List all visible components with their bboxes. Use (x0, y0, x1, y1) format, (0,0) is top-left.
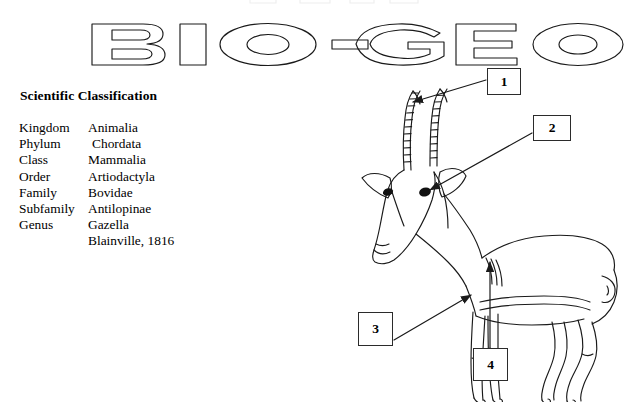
taxonomy-row: Subfamily Antilopinae (19, 201, 249, 217)
taxonomy-row: Class Mammalia (19, 152, 249, 168)
callout-box-4[interactable]: 4 (473, 348, 508, 381)
taxonomy-authority: Blainville, 1816 (88, 233, 174, 249)
taxonomy-value: Bovidae (88, 185, 133, 201)
taxonomy-row: Family Bovidae (19, 185, 249, 201)
leader-line-1 (413, 80, 486, 102)
worksheet-page: Scientific Classification Kingdom Animal… (0, 0, 624, 402)
taxonomy-row-continuation: Blainville, 1816 (19, 233, 249, 249)
taxonomy-rank: Kingdom (19, 120, 88, 136)
callout-box-2[interactable]: 2 (533, 115, 571, 141)
gazelle-figure: 1 2 3 4 (330, 40, 624, 402)
scientific-classification-block: Scientific Classification Kingdom Animal… (19, 88, 249, 250)
leader-line-3 (394, 295, 471, 340)
taxonomy-rank: Genus (19, 217, 88, 233)
callout-label-1: 1 (488, 69, 520, 94)
taxonomy-value: Artiodactyla (88, 169, 155, 185)
taxonomy-row: Genus Gazella (19, 217, 249, 233)
taxonomy-value: Mammalia (88, 152, 146, 168)
callout-label-3: 3 (359, 313, 392, 345)
taxonomy-value: Gazella (88, 217, 129, 233)
taxonomy-rank: Phylum (19, 136, 88, 152)
taxonomy-value: Chordata (88, 136, 141, 152)
taxonomy-rank: Order (19, 169, 88, 185)
taxonomy-row: Phylum Chordata (19, 136, 249, 152)
callout-label-2: 2 (534, 116, 570, 140)
taxonomy-rank: Class (19, 152, 88, 168)
taxonomy-rank: Subfamily (19, 201, 88, 217)
taxonomy-rank: Family (19, 185, 88, 201)
leader-line-2 (430, 133, 532, 190)
classification-heading: Scientific Classification (20, 88, 249, 104)
callout-label-4: 4 (474, 349, 507, 380)
taxonomy-value: Animalia (88, 120, 138, 136)
callout-box-3[interactable]: 3 (358, 312, 393, 346)
taxonomy-row: Kingdom Animalia (19, 120, 249, 136)
taxonomy-value: Antilopinae (88, 201, 151, 217)
callout-box-1[interactable]: 1 (487, 68, 521, 95)
taxonomy-row: Order Artiodactyla (19, 169, 249, 185)
